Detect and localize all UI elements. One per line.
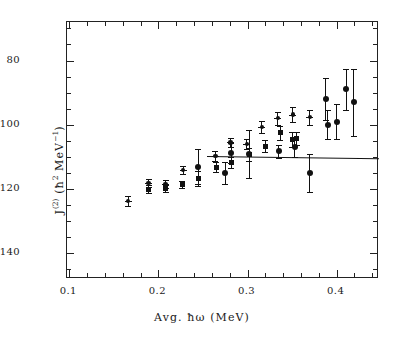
y-axis-minor-tick-right [373,77,377,78]
error-bar-cap [290,122,296,123]
error-bar-cap [195,186,201,187]
x-axis-minor-tick-top [230,22,231,26]
x-axis-minor-tick [194,273,195,277]
error-bar-cap [323,78,329,79]
error-bar-cap [228,168,234,169]
error-bar-cap [180,174,186,175]
y-axis-major-tick-right [370,253,377,254]
y-axis-minor-tick-right [373,269,377,270]
error-bar-cap [343,69,349,70]
data-point-cross-arm [274,118,281,119]
x-axis-tick-label: 0.2 [137,286,177,296]
x-axis-minor-tick-top [87,22,88,26]
x-axis-minor-tick [372,273,373,277]
error-bar-cap [307,154,313,155]
error-bar-cap [343,110,349,111]
x-axis-minor-tick [176,273,177,277]
y-axis-tick-label: 100 [0,119,20,129]
y-axis-minor-tick [67,44,71,45]
error-bar-cap [275,112,281,113]
y-axis-title-mev-exponent: −1 [51,130,60,141]
data-point-circle [292,144,298,150]
x-axis-minor-tick-top [354,22,355,26]
x-axis-minor-tick-top [372,22,373,26]
y-axis-title-hbar-exponent: 2 [51,175,60,180]
error-bar-cap [222,184,228,185]
y-axis-minor-tick [67,77,71,78]
error-bar-cap [294,132,300,133]
data-point-circle [195,164,201,170]
data-point-square [146,187,151,192]
x-axis-major-tick-top [69,22,70,29]
data-point-square [163,186,168,191]
y-axis-major-tick [67,253,74,254]
error-bar-cap [246,178,252,179]
error-bar-cap [307,125,313,126]
x-axis-minor-tick-top [265,22,266,26]
error-bar-cap [228,138,234,139]
data-point-cross-arm [289,115,296,116]
error-bar-cap [125,206,131,207]
y-axis-minor-tick [67,237,71,238]
y-axis-major-tick [67,61,74,62]
y-axis-minor-tick [67,141,71,142]
y-axis-title-hbar: ħ [53,180,66,188]
error-bar-cap [146,193,152,194]
data-point-cross-arm [212,156,219,157]
error-bar-cap [351,69,357,70]
error-bar-cap [146,179,152,180]
x-axis-minor-tick [212,273,213,277]
data-point-circle [276,148,282,154]
y-axis-major-tick-right [370,61,377,62]
data-point-cross-arm [306,117,313,118]
y-axis-minor-tick [67,157,71,158]
y-axis-title-unit-open: ( [53,188,66,198]
y-axis-tick-label: 140 [0,247,20,257]
x-axis-major-tick [248,270,249,277]
error-bar-cap [212,151,218,152]
x-axis-major-tick [337,270,338,277]
y-axis-minor-tick-right [373,93,377,94]
y-axis-minor-tick [67,173,71,174]
error-bar-cap [213,172,219,173]
error-bar-cap [325,139,331,140]
y-axis-minor-tick [67,205,71,206]
x-axis-title-unit: (MeV) [206,311,250,324]
x-axis-major-tick [158,270,159,277]
x-axis-title: Avg. ħω (MeV) [0,311,404,324]
data-point-cross-arm [125,201,132,202]
y-axis-major-tick [67,125,74,126]
x-axis-minor-tick [319,273,320,277]
error-bar-cap [292,157,298,158]
data-point-square [214,165,219,170]
data-point-circle [307,170,313,176]
y-axis-title-superscript: (2) [51,198,60,209]
y-axis-minor-tick [67,221,71,222]
y-axis-tick-label: 120 [0,183,20,193]
data-point-circle [323,96,329,102]
error-bar-cap [163,192,169,193]
x-axis-minor-tick [105,273,106,277]
y-axis-minor-tick [67,93,71,94]
error-bar-cap [351,136,357,137]
plot-frame [66,21,378,278]
error-bar-cap [195,149,201,150]
error-bar-cap [125,196,131,197]
error-bar-cap [213,162,219,163]
y-axis-tick-label: 80 [0,55,20,65]
error-bar-cap [179,188,185,189]
error-bar-cap [163,180,169,181]
error-bar-cap [259,133,265,134]
y-axis-title-symbol: J [53,209,66,215]
error-bar-cap [334,104,340,105]
data-point-square [180,182,185,187]
error-bar-cap [307,110,313,111]
error-bar-cap [307,192,313,193]
x-axis-minor-tick-top [194,22,195,26]
x-axis-major-tick-top [158,22,159,29]
y-axis-title-unit-close: ) [53,125,66,130]
x-axis-minor-tick [265,273,266,277]
error-bar-cap [276,145,282,146]
y-axis-minor-tick-right [373,237,377,238]
x-axis-minor-tick [230,273,231,277]
